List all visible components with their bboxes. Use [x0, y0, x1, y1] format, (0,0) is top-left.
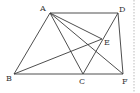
segment-AB [14, 13, 50, 74]
segment-BE [14, 39, 102, 74]
point-label-C: C [79, 77, 85, 86]
segment-AF [50, 13, 123, 74]
point-label-B: B [6, 74, 12, 83]
point-label-F: F [122, 77, 128, 86]
segment-DF [118, 13, 123, 74]
point-label-E: E [104, 38, 110, 47]
point-label-A: A [39, 4, 46, 13]
segment-AC [50, 13, 83, 74]
point-label-D: D [119, 5, 125, 14]
geometry-diagram: ADEBCF [0, 0, 140, 93]
